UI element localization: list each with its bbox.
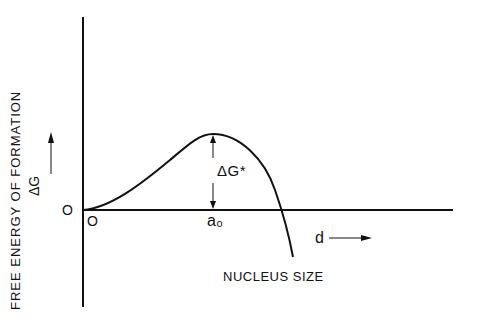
y-axis-symbol: ΔG <box>26 176 42 196</box>
x-axis-caption: NUCLEUS SIZE <box>223 269 324 284</box>
arrowhead-up-icon <box>210 135 216 143</box>
d-arrowhead-icon <box>361 235 372 241</box>
dG-arrowhead-icon <box>48 132 54 143</box>
barrier-label: ΔG* <box>217 162 246 179</box>
origin-y-label: O <box>62 202 73 218</box>
free-energy-curve <box>83 134 293 257</box>
origin-x-label: O <box>87 213 98 229</box>
y-axis-label: FREE ENERGY OF FORMATION <box>8 91 23 310</box>
critical-size-label: aₒ <box>207 212 223 230</box>
arrowhead-down-icon <box>210 201 216 209</box>
x-axis-symbol: d <box>315 229 324 247</box>
